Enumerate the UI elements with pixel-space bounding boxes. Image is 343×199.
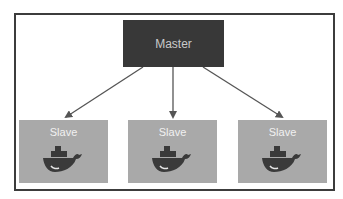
- slave-label: Slave: [19, 126, 108, 138]
- docker-whale-icon: [41, 142, 85, 176]
- slave-label: Slave: [238, 126, 327, 138]
- slave-node-1: Slave: [19, 120, 108, 183]
- master-node: Master: [123, 20, 224, 67]
- slave-label: Slave: [128, 126, 217, 138]
- slave-node-3: Slave: [238, 120, 327, 183]
- slave-node-2: Slave: [128, 120, 217, 183]
- docker-whale-icon: [260, 142, 304, 176]
- docker-whale-icon: [150, 142, 194, 176]
- master-label: Master: [155, 37, 192, 51]
